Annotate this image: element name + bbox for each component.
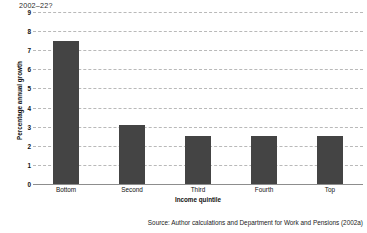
y-tick-label: 8 [22,28,31,35]
y-tick-label: 1 [22,161,31,168]
x-axis-title: Income quintile [33,196,363,203]
y-tick-label: 0 [22,181,31,188]
x-tick-label: Bottom [56,186,76,193]
bars-layer [33,12,363,184]
chart-figure: 2002–22? Percentage annual growth 012345… [0,0,367,233]
y-tick-label: 5 [22,85,31,92]
y-tick-label: 2 [22,142,31,149]
x-tick-label: Second [121,186,143,193]
x-axis-line [33,184,363,185]
y-tick-label: 4 [22,104,31,111]
bar-fourth [251,136,277,184]
source-note: Source: Author calculations and Departme… [148,219,363,226]
x-tick-label: Fourth [255,186,273,193]
bar-second [119,125,145,184]
bar-top [317,136,343,184]
y-tick-label: 7 [22,47,31,54]
bar-bottom [53,41,79,184]
bar-third [185,136,211,184]
plot-area: 0123456789 [33,12,363,184]
y-tick-label: 3 [22,123,31,130]
x-tick-label: Third [191,186,206,193]
x-tick-label: Top [325,186,335,193]
y-tick-label: 6 [22,66,31,73]
y-tick-label: 9 [22,9,31,16]
